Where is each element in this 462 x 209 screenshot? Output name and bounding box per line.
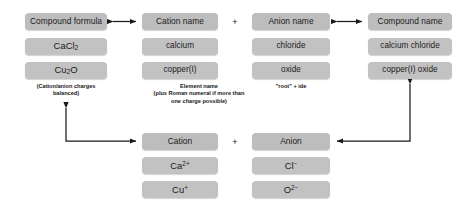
box-cation-example-1[interactable]: Ca2+ (142, 157, 218, 174)
box-anion-name-example-1[interactable]: chloride (252, 38, 330, 55)
naming-flow-diagram: Compound formula CaCl2 Cu2O (Cation/anio… (0, 0, 462, 209)
ion-ca2plus: Ca2+ (170, 161, 189, 170)
box-anion-example-2[interactable]: O2− (252, 181, 330, 198)
box-cation-header[interactable]: Cation (142, 133, 218, 150)
box-compound-formula-header[interactable]: Compound formula (25, 13, 107, 30)
ion-cuplus: Cu+ (172, 185, 188, 194)
box-compound-formula-example-1[interactable]: CaCl2 (25, 38, 107, 55)
box-cation-example-2[interactable]: Cu+ (142, 181, 218, 198)
box-compound-name-header[interactable]: Compound name (368, 13, 452, 30)
box-anion-name-example-2[interactable]: oxide (252, 62, 330, 79)
ion-chloride: Cl− (285, 161, 298, 170)
box-anion-example-1[interactable]: Cl− (252, 157, 330, 174)
formula-cu2o: Cu2O (54, 65, 77, 76)
box-cation-name-example-2[interactable]: copper(I) (142, 62, 218, 79)
box-cation-name-header[interactable]: Cation name (142, 13, 218, 30)
plus-operator-bottom: + (224, 137, 246, 147)
arrow-cation-to-formula (66, 108, 136, 141)
arrow-compound-name-to-anion (337, 84, 410, 141)
caption-anion-name: "root" + ide (252, 83, 330, 90)
formula-cacl2: CaCl2 (54, 41, 79, 52)
box-compound-formula-example-2[interactable]: Cu2O (25, 62, 107, 79)
box-compound-name-example-2[interactable]: copper(I) oxide (368, 62, 452, 79)
caption-compound-formula: (Cation/anion charges balanced) (13, 83, 119, 98)
box-compound-name-example-1[interactable]: calcium chloride (368, 38, 452, 55)
ion-oxide: O2− (284, 185, 299, 194)
plus-operator-top: + (224, 17, 246, 27)
box-anion-name-header[interactable]: Anion name (252, 13, 330, 30)
box-cation-name-example-1[interactable]: calcium (142, 38, 218, 55)
box-anion-header[interactable]: Anion (252, 133, 330, 150)
